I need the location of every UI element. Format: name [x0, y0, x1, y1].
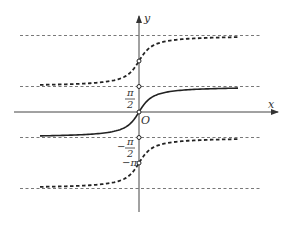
label-neg-pi: −π — [122, 157, 137, 168]
x-axis-label: x — [268, 98, 275, 111]
y-axis-label: y — [143, 12, 151, 25]
marked-point — [137, 85, 141, 89]
label-neg-pi-over-2-num: π — [126, 136, 134, 147]
marked-point — [137, 136, 141, 140]
diagram-canvas: x y O π 2 − π 2 −π — [0, 0, 293, 226]
label-neg-pi-over-2-sign: − — [117, 141, 125, 152]
marked-point — [137, 161, 141, 165]
marked-point — [137, 59, 141, 63]
label-pi-over-2: π 2 — [125, 87, 135, 110]
label-neg-pi-over-2: − π 2 — [117, 136, 135, 159]
label-pi-over-2-den: 2 — [126, 99, 133, 110]
label-pi-over-2-num: π — [126, 87, 134, 98]
origin-label: O — [141, 114, 150, 127]
